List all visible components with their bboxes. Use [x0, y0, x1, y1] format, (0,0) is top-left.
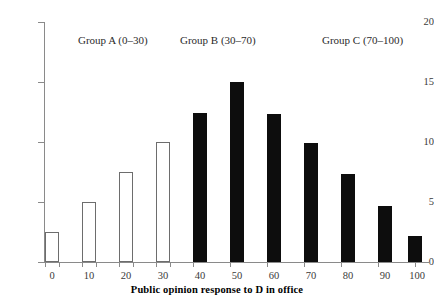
x-axis-label-60: 60: [259, 270, 289, 281]
x-axis-label-50: 50: [222, 270, 252, 281]
y-axis-label-10: 10: [400, 137, 434, 148]
x-tick-50: [230, 262, 231, 267]
x-axis-label-0: 0: [37, 270, 67, 281]
y-tick-10: [38, 142, 44, 143]
group-annotation-a: Group A (0–30): [78, 34, 148, 46]
y-tick-5: [38, 202, 44, 203]
group-annotation-b: Group B (30–70): [180, 34, 256, 46]
x-tick-10: [82, 262, 83, 267]
bar-40: [193, 113, 207, 262]
y-axis-label-15: 15: [400, 77, 434, 88]
x-tick-10-end: [96, 262, 97, 267]
y-axis-label-20: 20: [400, 17, 434, 28]
bar-chart: Group A (0–30) Group B (30–70) Group C (…: [0, 0, 434, 304]
bar-60: [267, 114, 281, 262]
bar-10: [82, 202, 96, 262]
bar-70: [304, 143, 318, 262]
x-tick-0: [45, 262, 46, 267]
x-tick-60: [267, 262, 268, 267]
bar-0: [45, 232, 59, 262]
x-tick-20-end: [133, 262, 134, 267]
x-axis-label-80: 80: [333, 270, 363, 281]
bar-80: [341, 174, 355, 262]
x-tick-20: [119, 262, 120, 267]
bar-50: [230, 82, 244, 262]
bar-90: [378, 206, 392, 262]
group-annotation-c: Group C (70–100): [322, 34, 403, 46]
x-tick-40: [193, 262, 194, 267]
x-tick-100: [415, 262, 416, 267]
x-tick-30: [156, 262, 157, 267]
y-axis-line: [44, 22, 45, 263]
x-axis-label-90: 90: [370, 270, 400, 281]
x-tick-30-end: [170, 262, 171, 267]
x-axis-label-70: 70: [296, 270, 326, 281]
x-tick-70: [304, 262, 305, 267]
x-tick-90: [378, 262, 379, 267]
x-axis-label-20: 20: [111, 270, 141, 281]
x-axis-label-40: 40: [185, 270, 215, 281]
bar-30: [156, 142, 170, 262]
x-axis-label-10: 10: [74, 270, 104, 281]
y-axis-label-5: 5: [400, 197, 434, 208]
x-tick-0-end: [59, 262, 60, 267]
x-axis-line: [44, 262, 430, 263]
y-tick-15: [38, 82, 44, 83]
x-axis-label-100: 100: [402, 270, 432, 281]
y-tick-20: [38, 22, 44, 23]
bar-20: [119, 172, 133, 262]
x-tick-80: [341, 262, 342, 267]
x-axis-label-30: 30: [148, 270, 178, 281]
x-axis-title: Public opinion response to D in office: [0, 284, 434, 295]
bar-100: [408, 236, 422, 262]
